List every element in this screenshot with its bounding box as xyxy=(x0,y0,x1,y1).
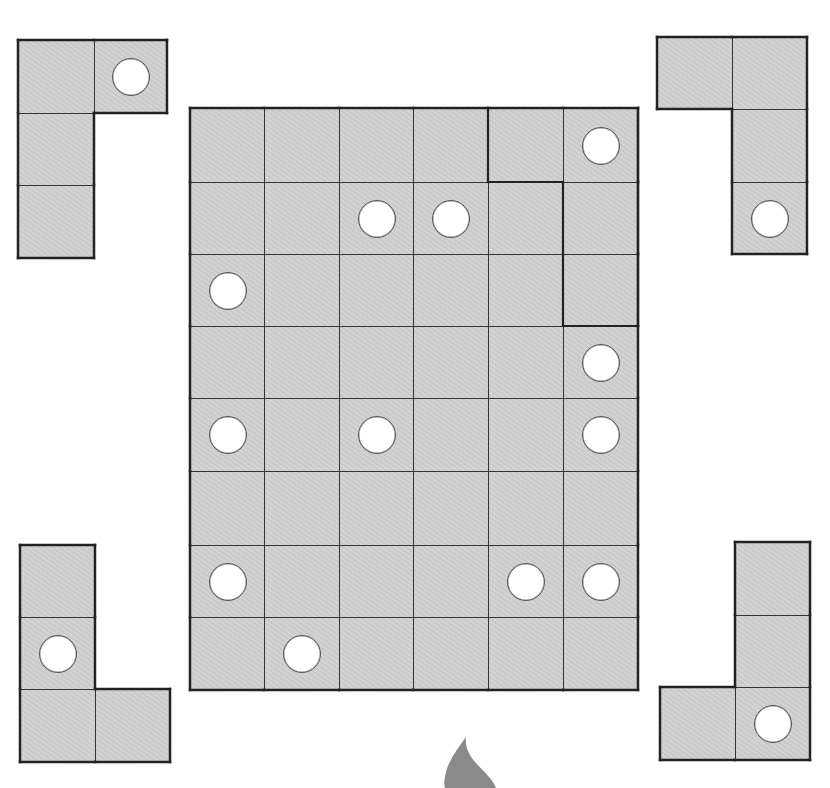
board-cell[interactable] xyxy=(264,254,340,327)
piece-cell xyxy=(732,109,808,183)
piece-cell xyxy=(732,37,808,110)
hole-circle-icon xyxy=(582,344,620,382)
hole-circle-icon xyxy=(754,705,792,743)
board-cell[interactable] xyxy=(488,617,564,691)
board-cell[interactable] xyxy=(413,398,489,472)
piece-cell xyxy=(732,182,808,255)
hole-circle-icon xyxy=(751,200,789,238)
board-cell[interactable] xyxy=(563,617,639,691)
board-cell[interactable] xyxy=(264,182,340,255)
board-cell[interactable] xyxy=(190,398,265,472)
hole-circle-icon xyxy=(209,563,247,601)
piece-cell xyxy=(95,689,171,763)
board-cell[interactable] xyxy=(488,326,564,399)
piece-cell xyxy=(18,113,95,186)
board-cell[interactable] xyxy=(190,471,265,546)
board-cell[interactable] xyxy=(563,471,639,546)
piece-cell xyxy=(18,40,95,114)
board-cell[interactable] xyxy=(488,545,564,618)
piece-cell xyxy=(20,689,96,763)
piece-cell xyxy=(735,687,811,761)
board-cell[interactable] xyxy=(190,545,265,618)
board-cell[interactable] xyxy=(563,398,639,472)
board-cell[interactable] xyxy=(563,108,639,183)
board-cell[interactable] xyxy=(339,254,414,327)
piece-cell xyxy=(94,40,168,114)
piece-cell xyxy=(20,545,96,618)
board-cell[interactable] xyxy=(339,182,414,255)
board-cell[interactable] xyxy=(488,254,564,327)
board-cell[interactable] xyxy=(339,471,414,546)
hole-circle-icon xyxy=(507,563,545,601)
board-cell[interactable] xyxy=(488,108,564,183)
board-cell[interactable] xyxy=(488,398,564,472)
piece-cell xyxy=(20,617,96,690)
hole-circle-icon xyxy=(112,58,150,96)
board-cell[interactable] xyxy=(339,545,414,618)
hole-circle-icon xyxy=(283,635,321,673)
piece-cell xyxy=(735,542,811,616)
hole-circle-icon xyxy=(358,200,396,238)
hole-circle-icon xyxy=(209,272,247,310)
board-cell[interactable] xyxy=(563,545,639,618)
board-cell[interactable] xyxy=(413,182,489,255)
piece-cell xyxy=(660,687,736,761)
board-cell[interactable] xyxy=(413,545,489,618)
board-cell[interactable] xyxy=(190,182,265,255)
board-cell[interactable] xyxy=(563,254,639,327)
board-cell[interactable] xyxy=(264,398,340,472)
board-cell[interactable] xyxy=(190,326,265,399)
board-cell[interactable] xyxy=(413,471,489,546)
board-cell[interactable] xyxy=(413,254,489,327)
piece-cell xyxy=(657,37,733,110)
board-cell[interactable] xyxy=(413,326,489,399)
hole-circle-icon xyxy=(358,416,396,454)
hole-circle-icon xyxy=(209,416,247,454)
board-cell[interactable] xyxy=(190,108,265,183)
board-cell[interactable] xyxy=(264,108,340,183)
board-cell[interactable] xyxy=(264,326,340,399)
hole-circle-icon xyxy=(432,200,470,238)
board-cell[interactable] xyxy=(488,182,564,255)
board-cell[interactable] xyxy=(190,254,265,327)
hole-circle-icon xyxy=(39,635,77,673)
board-cell[interactable] xyxy=(563,182,639,255)
board-cell[interactable] xyxy=(413,617,489,691)
board-cell[interactable] xyxy=(488,471,564,546)
board-cell[interactable] xyxy=(339,326,414,399)
board-cell[interactable] xyxy=(264,617,340,691)
hole-circle-icon xyxy=(582,127,620,165)
board-cell[interactable] xyxy=(264,471,340,546)
hole-circle-icon xyxy=(582,563,620,601)
board-cell[interactable] xyxy=(563,326,639,399)
board-cell[interactable] xyxy=(190,617,265,691)
board-cell[interactable] xyxy=(264,545,340,618)
hole-circle-icon xyxy=(582,416,620,454)
main-board xyxy=(190,108,640,692)
board-cell[interactable] xyxy=(339,108,414,183)
board-cell[interactable] xyxy=(339,617,414,691)
board-cell[interactable] xyxy=(413,108,489,183)
board-cell[interactable] xyxy=(339,398,414,472)
piece-cell xyxy=(18,185,95,259)
piece-cell xyxy=(735,615,811,688)
